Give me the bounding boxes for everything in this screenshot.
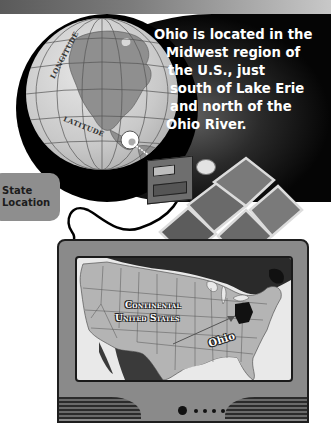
indicator-dot-icon	[212, 409, 216, 413]
speaker-grille-left	[59, 397, 141, 419]
tab-line-1: State	[2, 185, 50, 197]
power-knob-icon	[178, 406, 187, 415]
indicator-dot-icon	[194, 409, 198, 413]
us-map-icon	[77, 258, 291, 380]
indicator-dot-icon	[203, 409, 207, 413]
tv-screen: Continental United States Ohio	[75, 256, 293, 382]
satellite-dish-icon	[196, 159, 216, 175]
tab-line-2: Location	[2, 197, 50, 209]
map-title-line-2: United States	[115, 313, 179, 323]
television: Continental United States Ohio	[57, 239, 309, 423]
state-location-label: State Location	[2, 185, 50, 209]
map-title-line-1: Continental	[125, 300, 181, 310]
receiver-device	[147, 156, 193, 205]
speaker-grille-right	[225, 397, 307, 419]
receiver-slot	[153, 181, 187, 197]
receiver-display	[153, 164, 175, 176]
indicator-dot-icon	[221, 409, 225, 413]
